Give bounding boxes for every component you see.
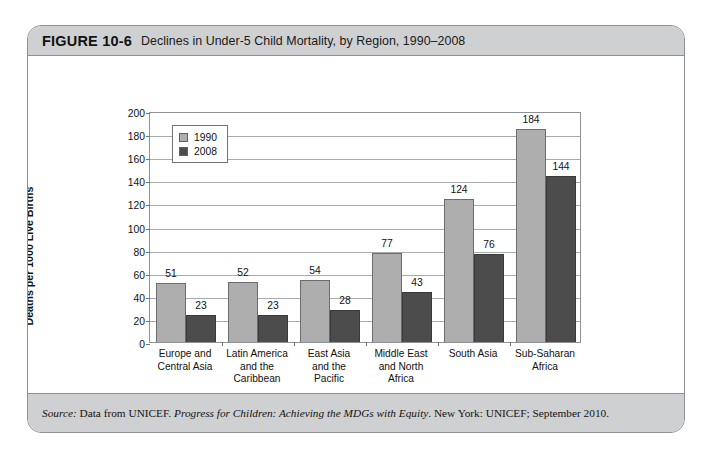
x-tick-mark	[294, 342, 295, 346]
y-tick-label: 160	[105, 154, 145, 165]
chart-area: Deaths per 1000 Live Births 020406080100…	[28, 56, 684, 393]
bar-2008: 76	[474, 254, 504, 342]
legend-label-2008: 2008	[194, 146, 217, 157]
figure-title: Declines in Under-5 Child Mortality, by …	[141, 34, 465, 48]
bar-1990: 77	[372, 253, 402, 342]
plot-area: 020406080100120140160180200 512352235428…	[149, 112, 581, 343]
x-category-label: Sub-SaharanAfrica	[509, 348, 581, 373]
bar-2008: 144	[546, 176, 576, 342]
y-tick-label: 140	[105, 177, 145, 188]
x-category-label: East Asiaand thePacific	[293, 348, 365, 386]
y-axis-label: Deaths per 1000 Live Births	[27, 156, 35, 356]
legend-item-2008: 2008	[179, 144, 217, 158]
figure-source-band: Source: Data from UNICEF. Progress for C…	[28, 393, 684, 432]
source-part2: . New York: UNICEF; September 2010.	[428, 407, 609, 419]
x-category-label: Latin Americaand theCaribbean	[221, 348, 293, 386]
bar-value-label: 51	[165, 268, 176, 279]
bar-value-label: 52	[237, 267, 248, 278]
figure-header: FIGURE 10-6 Declines in Under-5 Child Mo…	[28, 26, 684, 56]
y-tick-label: 120	[105, 200, 145, 211]
source-prefix: Source:	[42, 407, 77, 419]
legend-label-1990: 1990	[194, 132, 217, 143]
x-tick-mark	[510, 342, 511, 346]
source-title-italic: Progress for Children: Achieving the MDG…	[174, 407, 428, 419]
x-category-label: Europe andCentral Asia	[149, 348, 221, 373]
x-category-label: Middle Eastand NorthAfrica	[365, 348, 437, 386]
bar-value-label: 54	[309, 265, 320, 276]
legend-swatch-2008-icon	[179, 147, 188, 156]
bar-2008: 23	[186, 315, 216, 342]
bar-1990: 51	[156, 283, 186, 342]
chart-legend: 1990 2008	[172, 125, 228, 163]
figure-page: FIGURE 10-6 Declines in Under-5 Child Mo…	[0, 0, 707, 457]
bar-group: 5223	[222, 113, 294, 342]
x-tick-mark	[438, 342, 439, 346]
bar-value-label: 23	[267, 300, 278, 311]
legend-item-1990: 1990	[179, 130, 217, 144]
y-tick-label: 80	[105, 246, 145, 257]
bar-2008: 28	[330, 310, 360, 342]
figure-number: FIGURE 10-6	[42, 33, 132, 49]
bar-2008: 23	[258, 315, 288, 342]
source-part1: Data from UNICEF.	[77, 407, 174, 419]
bar-1990: 184	[516, 129, 546, 342]
legend-swatch-1990-icon	[179, 133, 188, 142]
bar-group: 5428	[294, 113, 366, 342]
source-text: Source: Data from UNICEF. Progress for C…	[42, 407, 609, 419]
bar-value-label: 43	[411, 277, 422, 288]
bar-group: 184144	[510, 113, 582, 342]
y-tick-label: 60	[105, 269, 145, 280]
bar-1990: 54	[300, 280, 330, 342]
bar-value-label: 124	[450, 184, 467, 195]
x-tick-mark	[366, 342, 367, 346]
bar-value-label: 23	[195, 300, 206, 311]
bar-group: 7743	[366, 113, 438, 342]
bar-value-label: 28	[339, 295, 350, 306]
bar-group: 12476	[438, 113, 510, 342]
bar-1990: 124	[444, 199, 474, 342]
bar-2008: 43	[402, 292, 432, 342]
y-tick-label: 40	[105, 292, 145, 303]
figure-box: FIGURE 10-6 Declines in Under-5 Child Mo…	[27, 25, 685, 433]
bar-value-label: 144	[552, 161, 569, 172]
y-tick-label: 0	[105, 339, 145, 350]
bar-1990: 52	[228, 282, 258, 342]
bar-value-label: 184	[522, 114, 539, 125]
x-tick-mark	[222, 342, 223, 346]
bar-value-label: 77	[381, 238, 392, 249]
y-tick-mark	[146, 344, 150, 345]
y-tick-label: 20	[105, 315, 145, 326]
bar-value-label: 76	[483, 239, 494, 250]
y-tick-label: 200	[105, 108, 145, 119]
x-category-label: South Asia	[437, 348, 509, 361]
y-tick-label: 100	[105, 223, 145, 234]
y-tick-label: 180	[105, 131, 145, 142]
